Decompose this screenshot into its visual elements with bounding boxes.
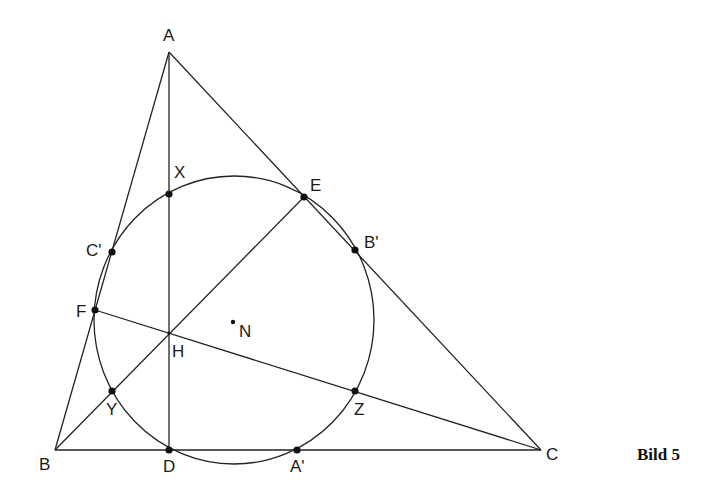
label-c-prime: C' [86,242,102,259]
point-c-prime [108,248,115,255]
point-y [108,387,115,394]
label-f: F [76,303,86,320]
point-b-prime [351,246,358,253]
point-d [165,446,172,453]
point-f [91,306,98,313]
label-b-prime: B' [364,234,379,251]
altitude-be [55,197,304,450]
point-a-prime [293,446,300,453]
label-n: N [239,323,251,340]
point-z [351,387,358,394]
point-h [167,331,170,334]
geometry-diagram [0,0,721,502]
figure-canvas: A B C D E F H N X Y Z A' B' C' Bild 5 [0,0,721,502]
label-a-prime: A' [290,458,305,475]
label-x: X [174,164,185,181]
figure-caption: Bild 5 [637,446,680,463]
point-e [300,193,307,200]
point-x [165,190,172,197]
nine-point-circle [94,176,374,464]
label-e: E [310,177,321,194]
label-z: Z [354,401,364,418]
label-d: D [163,458,175,475]
label-b: B [39,456,50,473]
altitude-cf [95,310,541,450]
label-a: A [163,27,174,44]
label-c: C [546,446,558,463]
point-n [231,320,235,324]
label-y: Y [106,401,117,418]
label-h: H [172,343,184,360]
